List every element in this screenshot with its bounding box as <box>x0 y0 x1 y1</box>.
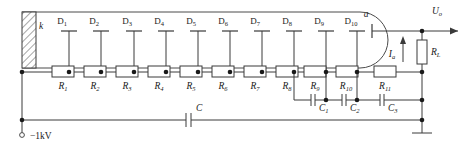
dynode-8-label: D8 <box>282 16 292 27</box>
resistor-labels-group: R1 R2 R3 R4 R5 R6 R7 R8 R9 R10 R11 <box>57 81 390 92</box>
anode-current-label: Ia <box>388 49 395 60</box>
anode-current-arrow <box>400 36 406 62</box>
resistor-R4-label: R4 <box>153 81 164 92</box>
capacitor-labels-group: C1 C2 C3 <box>319 103 398 114</box>
dynode-9-label: D9 <box>314 16 324 27</box>
load-resistor-label: RL <box>430 47 441 58</box>
output-voltage-label: Uo <box>432 6 443 17</box>
resistor-R1-label: R1 <box>57 81 67 92</box>
divider-resistors-group <box>52 66 396 77</box>
circuit-diagram-canvas: k <box>0 0 467 142</box>
resistor-R9 <box>304 66 326 77</box>
resistor-R8-label: R8 <box>281 81 292 92</box>
anode-label: a <box>364 9 369 19</box>
resistor-R5-label: R5 <box>185 81 196 92</box>
dynode-1-label: D1 <box>57 16 67 27</box>
resistor-R10 <box>336 66 358 77</box>
capacitor-C3-label: C3 <box>388 103 398 114</box>
bottom-rail-with-capacitor-C <box>22 113 422 127</box>
pmt-tube-envelope <box>22 12 388 68</box>
resistor-R3-label: R3 <box>121 81 132 92</box>
resistor-R10-label: R10 <box>339 81 353 92</box>
resistor-R11-label: R11 <box>378 81 391 92</box>
pmt-divider-schematic: k <box>0 0 467 142</box>
cathode-electrode <box>22 12 36 68</box>
resistor-R11 <box>374 66 396 77</box>
supply-voltage-label: −1kV <box>30 131 52 141</box>
dynode-labels-group: D1 D2 D3 D4 D5 D6 D7 D8 D9 D10 <box>57 16 357 27</box>
dynode-7-label: D7 <box>250 16 261 27</box>
dynode-5-label: D5 <box>186 16 196 27</box>
anode-electrode <box>372 24 422 38</box>
resistor-R2-label: R2 <box>89 81 100 92</box>
cathode-label: k <box>39 21 44 31</box>
coupling-capacitor-label: C <box>196 103 203 113</box>
load-resistor-RL <box>417 31 427 72</box>
resistor-R6-label: R6 <box>217 81 228 92</box>
capacitor-C2-label: C2 <box>350 103 360 114</box>
dynode-10-label: D10 <box>345 16 358 27</box>
resistor-R7-label: R7 <box>249 81 260 92</box>
output-branch <box>422 28 458 35</box>
dynode-3-label: D3 <box>122 16 132 27</box>
supply-terminal <box>20 120 25 137</box>
dynode-4-label: D4 <box>154 16 165 27</box>
dynode-2-label: D2 <box>89 16 99 27</box>
dynode-6-label: D6 <box>218 16 229 27</box>
resistor-R9-label: R9 <box>309 81 320 92</box>
capacitor-C1-label: C1 <box>319 103 329 114</box>
ground-branch-right <box>412 100 432 133</box>
